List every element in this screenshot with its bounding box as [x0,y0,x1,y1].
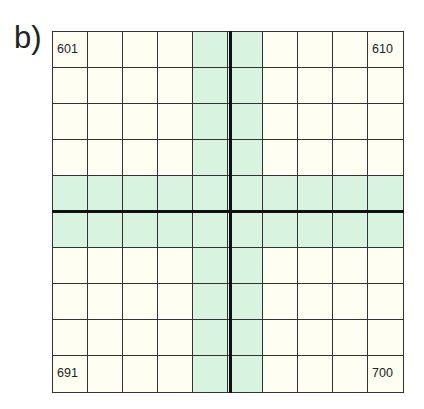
grid-cell [298,320,333,356]
horizontal-axis-line [52,210,404,213]
grid-cell [193,248,228,284]
grid-cell [333,68,368,104]
grid-cell [88,284,123,320]
grid-cell [263,320,298,356]
grid-cell [193,104,228,140]
grid-cell [368,140,403,176]
grid-cell [193,320,228,356]
grid-cell [368,212,403,248]
grid-cell [88,248,123,284]
grid-cell [193,212,228,248]
grid-cell [333,356,368,392]
grid-cell [53,104,88,140]
grid-cell [333,104,368,140]
grid-cell [228,32,263,68]
grid-cell [228,320,263,356]
grid-cell [228,68,263,104]
grid-cell [53,284,88,320]
grid-cell [123,356,158,392]
grid-cell [123,248,158,284]
grid-cell: 700 [368,356,403,392]
grid-cell [158,320,193,356]
grid-cell [53,140,88,176]
grid-cell [193,140,228,176]
grid-cell: 691 [53,356,88,392]
grid-cell [263,32,298,68]
grid-cell [263,356,298,392]
grid-cell [88,356,123,392]
grid-cell [123,176,158,212]
grid-cell: 610 [368,32,403,68]
grid-cell [333,284,368,320]
grid-cell [298,284,333,320]
grid-cell [368,176,403,212]
grid-cell [123,140,158,176]
grid-cell [298,212,333,248]
grid-cell [88,104,123,140]
corner-number: 610 [372,42,393,56]
grid-cell [263,176,298,212]
grid-cell [333,140,368,176]
grid-cell [228,176,263,212]
grid-cell [158,212,193,248]
grid-cell [158,104,193,140]
grid-cell [228,212,263,248]
grid-cell [368,104,403,140]
grid-cell [123,68,158,104]
grid-cell [368,320,403,356]
grid-cell [263,68,298,104]
grid-cell [333,320,368,356]
grid-cell [228,140,263,176]
grid-cell [228,104,263,140]
grid-cell [88,176,123,212]
part-label: b) [14,22,42,53]
grid-cell [263,140,298,176]
grid-cell [368,248,403,284]
grid-cell [123,212,158,248]
corner-number: 691 [57,366,78,380]
grid-cell [193,176,228,212]
grid-cell [88,68,123,104]
grid-cell [333,212,368,248]
grid-cell [158,248,193,284]
grid-cell [88,212,123,248]
corner-number: 601 [57,42,78,56]
grid-cell [193,32,228,68]
grid-cell [158,140,193,176]
grid-cell [298,176,333,212]
grid-cell [158,32,193,68]
grid-cell [158,356,193,392]
grid-cell [368,68,403,104]
grid-cell [333,32,368,68]
grid-cell [158,68,193,104]
grid-cell [298,32,333,68]
grid-cell [158,284,193,320]
grid-cell [193,284,228,320]
grid-cell [298,140,333,176]
grid-cell [53,68,88,104]
grid-cell [53,176,88,212]
grid-cell [123,320,158,356]
grid-cell [263,248,298,284]
grid-cell [228,356,263,392]
grid-cell [158,176,193,212]
grid-cell [123,284,158,320]
grid-cell [263,212,298,248]
grid-cell [333,248,368,284]
grid-cell [193,356,228,392]
grid-cell [263,104,298,140]
grid-cell [88,320,123,356]
grid-cell [123,104,158,140]
grid-cell [298,104,333,140]
grid-cell [263,284,298,320]
grid-cell: 601 [53,32,88,68]
grid-cell [298,356,333,392]
grid-cell [53,248,88,284]
grid-cell [368,284,403,320]
grid-cell [193,68,228,104]
grid-cell [298,68,333,104]
grid-cell [228,248,263,284]
grid-cell [228,284,263,320]
grid-cell [53,320,88,356]
grid-cell [123,32,158,68]
